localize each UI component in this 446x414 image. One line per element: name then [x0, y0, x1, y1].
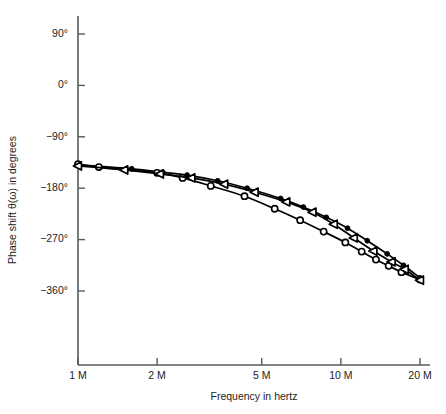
x-tick-label: 10 M: [329, 369, 352, 381]
open-circle-marker: [321, 229, 327, 235]
x-axis-title: Frequency in hertz: [211, 390, 298, 402]
series-line: [78, 165, 420, 278]
open-triangle-marker: [120, 166, 128, 174]
open-circle-marker: [359, 248, 365, 254]
chart-canvas: 90°0°−90°−180°−270°−360° 1 M2 M5 M10 M20…: [0, 0, 446, 414]
data-series-group: [73, 161, 423, 284]
y-tick-label: −90°: [46, 130, 68, 142]
x-tick-label: 2 M: [148, 369, 166, 381]
y-tick-label: −270°: [40, 232, 68, 244]
open-circle-marker: [272, 206, 278, 212]
y-tick-label: 0°: [58, 78, 68, 90]
x-axis: 1 M2 M5 M10 M20 M: [69, 358, 431, 381]
x-tick-group: 1 M2 M5 M10 M20 M: [69, 358, 431, 381]
open-circle-marker: [342, 239, 348, 245]
open-circle-marker: [208, 183, 214, 189]
y-tick-label: −360°: [40, 284, 68, 296]
open-circle-marker: [373, 256, 379, 262]
y-tick-label: −180°: [40, 181, 68, 193]
x-tick-label: 5 M: [253, 369, 271, 381]
series-line: [78, 164, 420, 279]
phase-shift-chart: 90°0°−90°−180°−270°−360° 1 M2 M5 M10 M20…: [0, 0, 446, 414]
y-tick-label: 90°: [52, 27, 68, 39]
series-filled-dot-curve: [76, 162, 423, 280]
filled-circle-marker: [385, 251, 390, 256]
x-tick-label: 1 M: [69, 369, 87, 381]
series-line: [78, 166, 420, 280]
y-axis: 90°0°−90°−180°−270°−360°: [40, 16, 85, 365]
open-circle-marker: [297, 217, 303, 223]
filled-circle-marker: [345, 226, 350, 231]
y-axis-title: Phase shift θ(ω) in degrees: [6, 136, 18, 264]
open-circle-marker: [241, 193, 247, 199]
filled-circle-marker: [365, 238, 370, 243]
series-open-triangle-curve: [73, 162, 423, 285]
series-open-circle-curve: [75, 161, 423, 283]
x-tick-label: 20 M: [408, 369, 431, 381]
